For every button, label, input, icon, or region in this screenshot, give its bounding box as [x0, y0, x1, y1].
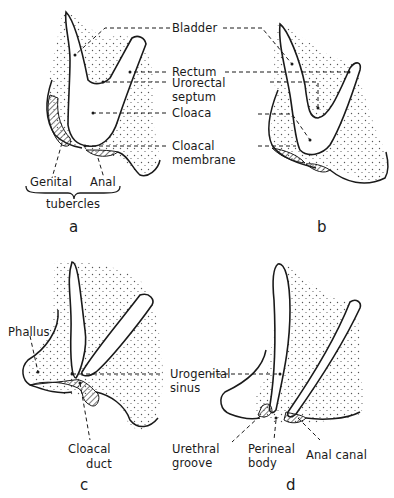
- panel-b-drawing: [223, 24, 388, 183]
- label-bladder: Bladder: [172, 22, 217, 35]
- label-body: body: [248, 457, 277, 470]
- panel-a-drawing: [26, 12, 170, 199]
- label-cloacal-duct-2: duct: [86, 458, 112, 471]
- label-groove: groove: [172, 457, 212, 470]
- label-phallus: Phallus: [8, 326, 50, 339]
- label-urethral: Urethral: [172, 443, 220, 456]
- label-cloacal: Cloacal: [172, 140, 215, 153]
- label-urogenital: Urogenital: [170, 368, 231, 381]
- panel-d-drawing: [210, 262, 364, 442]
- label-sinus: sinus: [170, 382, 200, 395]
- panel-c-drawing: [23, 262, 163, 440]
- label-perineal: Perineal: [248, 443, 295, 456]
- label-genital: Genital: [30, 176, 72, 189]
- panel-letter-b: b: [317, 218, 327, 236]
- panel-letter-d: d: [286, 476, 296, 494]
- cloaca-development-figure: Bladder Rectum Urorectal septum Cloaca C…: [0, 0, 394, 498]
- label-septum: septum: [172, 91, 216, 104]
- label-cloacal-duct-1: Cloacal: [68, 443, 111, 456]
- label-anal-canal: Anal canal: [306, 449, 367, 462]
- label-cloaca: Cloaca: [172, 107, 211, 120]
- label-tubercles: tubercles: [46, 198, 100, 211]
- label-urorectal: Urorectal: [172, 77, 225, 90]
- label-anal: Anal: [90, 176, 116, 189]
- panel-letter-c: c: [80, 476, 88, 494]
- panel-letter-a: a: [69, 218, 78, 236]
- label-membrane: membrane: [172, 154, 236, 167]
